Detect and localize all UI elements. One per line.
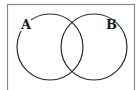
set-b-label: B — [106, 17, 117, 32]
venn-diagram: A B — [0, 0, 140, 90]
set-a-label: A — [20, 17, 32, 32]
set-b-circle — [61, 14, 127, 80]
